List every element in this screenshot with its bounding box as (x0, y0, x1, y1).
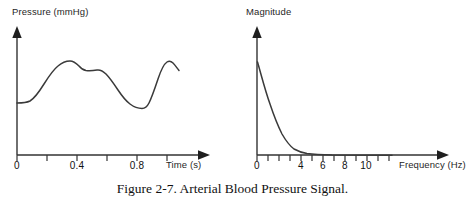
x-axis-title-frequency: Frequency (Hz) (399, 159, 466, 171)
x-tick-label-time-0: 0 (7, 160, 27, 172)
x-axis-title-time: Time (s) (166, 159, 201, 171)
x-tick-label-freq-10: 10 (354, 160, 378, 172)
x-tick-label-freq-6: 6 (313, 160, 333, 172)
x-tick-label-time-0.8: 0.8 (124, 160, 150, 172)
frequency-domain-plot (232, 0, 465, 178)
figure-caption: Figure 2-7. Arterial Blood Pressure Sign… (0, 180, 465, 198)
y-axis-time (12, 26, 21, 155)
x-tick-label-freq-0: 0 (247, 160, 267, 172)
x-tick-label-freq-8: 8 (335, 160, 355, 172)
y-axis-freq (252, 26, 261, 155)
chart-arterial-pressure-spectrum: Magnitude (232, 0, 465, 178)
time-domain-plot (0, 0, 232, 178)
magnitude-spectrum-curve (258, 62, 393, 155)
x-tick-label-time-0.4: 0.4 (64, 160, 90, 172)
pressure-waveform-curve (17, 61, 179, 109)
chart-arterial-pressure-time: Pressure (mmHg) (0, 0, 232, 178)
x-tick-label-freq-4: 4 (291, 160, 311, 172)
